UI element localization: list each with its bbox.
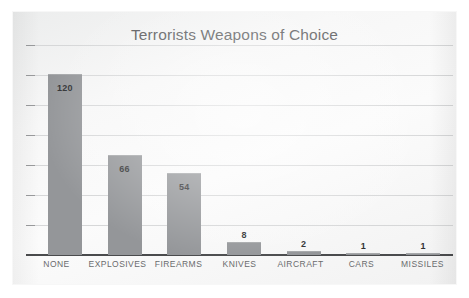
y-axis-tick [26,45,35,46]
screenshot-root: Terrorists Weapons of Choice 12066548211… [0,0,469,298]
category-label-knives: KNIVES [209,259,270,269]
bar-cars[interactable] [346,253,380,256]
y-axis-tick [26,195,35,196]
bar-value-label: 2 [301,239,306,249]
bar-knives[interactable] [227,242,261,255]
bars-group: 12066548211 [35,45,453,255]
chart-title: Terrorists Weapons of Choice [13,26,456,44]
bar-slot: 1 [334,45,394,255]
plot-area: 12066548211 [35,45,453,255]
y-axis-tick [26,135,35,136]
bar-aircraft[interactable] [287,251,321,255]
category-label-cars: CARS [331,259,392,269]
y-axis-tick [26,105,35,106]
bar-value-label: 1 [421,241,426,251]
bar-slot: 1 [393,45,453,255]
chart-card: Terrorists Weapons of Choice 12066548211… [13,12,456,284]
category-axis-labels: NONEEXPLOSIVESFIREARMSKNIVESAIRCRAFTCARS… [26,259,453,277]
category-label-explosives: EXPLOSIVES [87,259,148,269]
category-label-aircraft: AIRCRAFT [270,259,331,269]
bar-slot: 66 [95,45,155,255]
bar-value-label: 66 [119,164,129,174]
bar-value-label: 54 [179,182,189,192]
y-axis-tick [26,165,35,166]
bar-value-label: 120 [57,83,73,93]
bar-slot: 120 [35,45,95,255]
bar-slot: 8 [214,45,274,255]
bar-value-label: 1 [361,241,366,251]
y-axis-tick [26,75,35,76]
y-axis-tick [26,225,35,226]
bar-none[interactable] [48,74,82,255]
bar-slot: 2 [274,45,334,255]
bar-value-label: 8 [241,230,246,240]
category-label-firearms: FIREARMS [148,259,209,269]
category-label-missiles: MISSILES [392,259,453,269]
bar-missiles[interactable] [406,253,440,256]
bar-slot: 54 [154,45,214,255]
category-label-none: NONE [26,259,87,269]
